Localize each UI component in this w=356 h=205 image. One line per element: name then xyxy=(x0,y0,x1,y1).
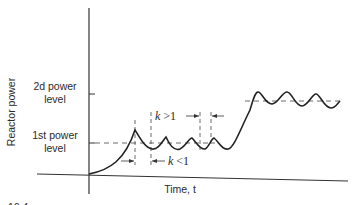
level-2d-line1: 2d power xyxy=(33,80,77,92)
k-greater-label: k >1 xyxy=(155,109,176,123)
x-axis-label: Time, t xyxy=(164,183,196,195)
level-1st-line2: level xyxy=(44,142,66,154)
y-axis-label: Reactor power xyxy=(5,77,17,146)
k-less-label: k <1 xyxy=(168,154,189,168)
arrowhead-icon xyxy=(212,114,217,118)
arrowhead-icon xyxy=(152,159,157,163)
arrowhead-icon xyxy=(129,159,134,163)
level-2d-line2: level xyxy=(44,93,66,105)
power-curve xyxy=(89,92,340,174)
x-axis xyxy=(37,174,348,181)
level-1st-line1: 1st power xyxy=(32,129,78,141)
reactor-power-diagram: Reactor power 2d power level 1st power l… xyxy=(0,0,356,205)
arrowhead-icon xyxy=(194,114,199,118)
caption-fragment: 16.4 xyxy=(8,201,29,205)
